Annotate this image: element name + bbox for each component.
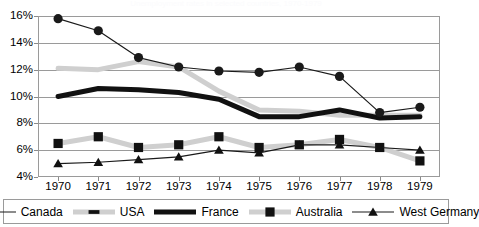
legend-item-australia[interactable]: Australia bbox=[248, 205, 343, 219]
legend-item-canada[interactable]: Canada bbox=[0, 205, 63, 219]
legend-swatch-dash-icon bbox=[72, 205, 116, 219]
series-line bbox=[58, 137, 420, 161]
legend-item-france[interactable]: France bbox=[153, 205, 238, 219]
data-point bbox=[335, 72, 344, 81]
chart-legend: CanadaUSAFranceAustraliaWest Germany bbox=[3, 199, 449, 224]
data-point bbox=[214, 132, 223, 141]
data-point bbox=[54, 14, 63, 23]
data-point bbox=[415, 103, 424, 112]
legend-swatch-triangle-icon bbox=[351, 205, 395, 219]
data-point bbox=[94, 26, 103, 35]
legend-item-usa[interactable]: USA bbox=[72, 205, 145, 219]
series-australia bbox=[54, 132, 425, 165]
data-point bbox=[174, 62, 183, 71]
data-point bbox=[174, 140, 183, 149]
legend-label: West Germany bbox=[399, 205, 479, 219]
legend-swatch-circle-icon bbox=[0, 205, 17, 219]
data-point bbox=[415, 156, 424, 165]
data-point bbox=[214, 146, 224, 154]
legend-label: France bbox=[201, 205, 238, 219]
data-point bbox=[54, 139, 63, 148]
data-point bbox=[134, 53, 143, 62]
data-point bbox=[255, 68, 264, 77]
data-point bbox=[214, 66, 223, 75]
legend-swatch-square-icon bbox=[248, 205, 292, 219]
legend-label: Canada bbox=[21, 205, 63, 219]
legend-swatch-none-icon bbox=[153, 205, 197, 219]
legend-item-west-germany[interactable]: West Germany bbox=[351, 205, 479, 219]
legend-label: Australia bbox=[296, 205, 343, 219]
data-point bbox=[134, 143, 143, 152]
data-point bbox=[94, 132, 103, 141]
data-point bbox=[375, 108, 384, 117]
legend-label: USA bbox=[120, 205, 145, 219]
data-point bbox=[295, 62, 304, 71]
series-line bbox=[58, 145, 420, 164]
